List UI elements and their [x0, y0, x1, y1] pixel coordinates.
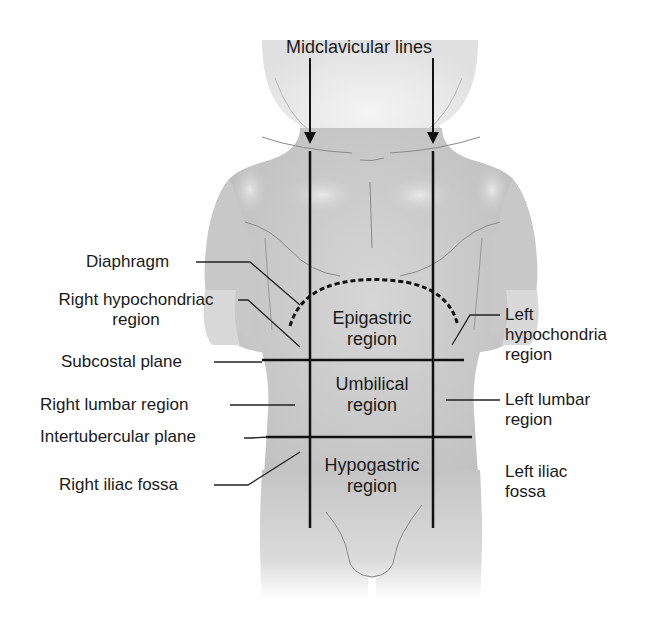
epigastric-line2: region [312, 329, 432, 350]
intertubercular-plane-label: Intertubercular plane [40, 427, 196, 447]
right-lumbar-label: Right lumbar region [40, 395, 188, 415]
right-hypochondriac-label: Right hypochondriac region [36, 290, 236, 330]
diaphragm-label: Diaphragm [86, 252, 169, 272]
right-hypochondriac-line1: Right hypochondriac [36, 290, 236, 310]
torso [204, 128, 539, 600]
hypogastric-line1: Hypogastric [312, 455, 432, 476]
left-lumbar-line2: region [505, 410, 590, 430]
left-lumbar-line1: Left lumbar [505, 390, 590, 410]
left-hypochondria-line3: region [505, 345, 607, 365]
left-iliac-line2: fossa [505, 482, 567, 502]
hypogastric-line2: region [312, 476, 432, 497]
right-iliac-fossa-label: Right iliac fossa [59, 475, 178, 495]
left-iliac-fossa-label: Left iliac fossa [505, 462, 567, 502]
epigastric-line1: Epigastric [312, 308, 432, 329]
umbilical-line1: Umbilical [312, 374, 432, 395]
umbilical-region-label: Umbilical region [312, 374, 432, 416]
left-hypochondria-line1: Left [505, 305, 607, 325]
umbilical-line2: region [312, 395, 432, 416]
epigastric-region-label: Epigastric region [312, 308, 432, 350]
subcostal-plane-label: Subcostal plane [61, 352, 182, 372]
right-hypochondriac-line2: region [36, 310, 236, 330]
left-hypochondria-label: Left hypochondria region [505, 305, 607, 365]
left-hypochondria-line2: hypochondria [505, 325, 607, 345]
hypogastric-region-label: Hypogastric region [312, 455, 432, 497]
left-iliac-line1: Left iliac [505, 462, 567, 482]
left-lumbar-label: Left lumbar region [505, 390, 590, 430]
midclavicular-lines-label: Midclavicular lines [286, 37, 432, 57]
